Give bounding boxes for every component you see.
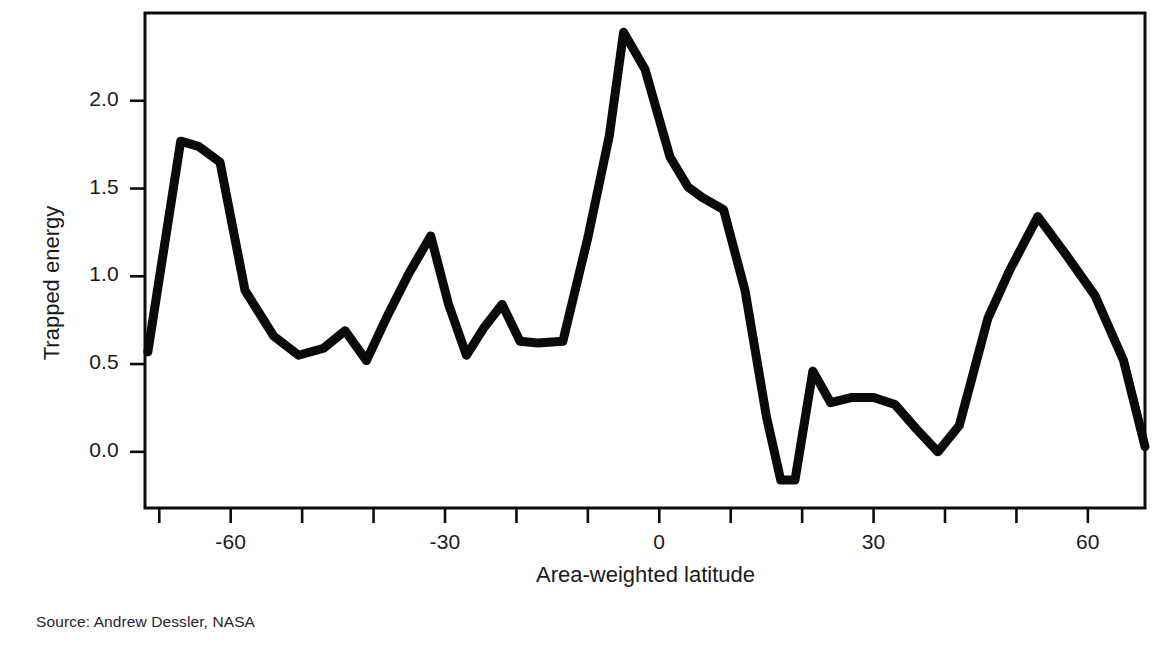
- x-tick-label: 0: [609, 530, 709, 554]
- source-note: Source: Andrew Dessler, NASA: [36, 613, 255, 631]
- y-axis-title: Trapped energy: [39, 173, 65, 393]
- data-line-trapped-energy: [148, 32, 1145, 480]
- x-tick-label: 60: [1038, 530, 1138, 554]
- x-axis-ticks: [159, 508, 1088, 523]
- plot-area: [0, 0, 1170, 647]
- plot-frame: [145, 13, 1145, 508]
- y-axis-ticks: [130, 101, 145, 452]
- y-tick-label: 1.5: [15, 175, 119, 199]
- y-tick-label: 2.0: [15, 87, 119, 111]
- chart-figure: 0.00.51.01.52.0 -60-3003060 Trapped ener…: [0, 0, 1170, 647]
- y-tick-label: 1.0: [15, 262, 119, 286]
- y-tick-label: 0.5: [15, 350, 119, 374]
- x-tick-label: -30: [395, 530, 495, 554]
- x-axis-title: Area-weighted latitude: [145, 562, 1146, 588]
- x-tick-label: 30: [824, 530, 924, 554]
- x-tick-label: -60: [181, 530, 281, 554]
- y-tick-label: 0.0: [15, 438, 119, 462]
